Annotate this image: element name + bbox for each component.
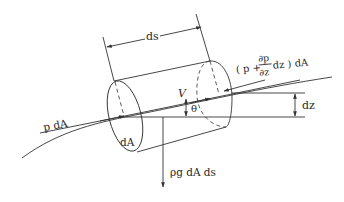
downstream-force-label: ( p + ∂p ∂z dz ) dA: [235, 49, 310, 80]
right-face-center-dash: [210, 61, 219, 94]
weight-label: ρg dA ds: [170, 166, 216, 178]
ds-extension-right: [196, 14, 210, 61]
cylinder-top-edge: [114, 61, 210, 81]
upstream-force-label: p dA: [42, 117, 68, 133]
left-face-center-dash: [115, 82, 124, 116]
theta-label: θ: [191, 103, 197, 114]
ds-extension-left: [103, 37, 114, 81]
fluid-element-diagram: ds θ V dz ρg dA ds dA p dA ( p + ∂p ∂z d…: [0, 0, 344, 202]
velocity-label: V: [178, 87, 187, 100]
ds-dimension-left-arrow: [107, 39, 145, 47]
downstream-force-open: ( p +: [235, 62, 261, 75]
ds-label: ds: [146, 30, 159, 43]
cylinder-bottom-edge: [137, 127, 226, 152]
streamline-curve: [22, 77, 332, 158]
ds-dimension-right-arrow: [160, 27, 201, 36]
dz-label: dz: [302, 99, 315, 112]
downstream-force-close: dz ) dA: [272, 57, 309, 71]
partial-z-denominator: ∂z: [259, 66, 270, 78]
partial-p-numerator: ∂p: [258, 52, 270, 64]
area-label: dA: [120, 136, 135, 148]
